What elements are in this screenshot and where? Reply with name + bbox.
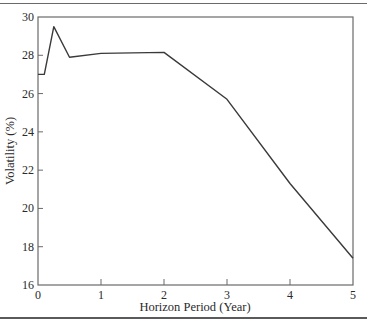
plot-border xyxy=(38,17,353,285)
y-axis-title: Volatility (%) xyxy=(3,117,17,185)
y-tick-label: 26 xyxy=(22,87,34,101)
y-tick-label: 30 xyxy=(22,10,34,24)
x-axis-title: Horizon Period (Year) xyxy=(139,300,250,314)
y-tick-label: 18 xyxy=(22,240,34,254)
x-tick-label: 5 xyxy=(350,288,356,302)
y-tick-label: 24 xyxy=(22,125,34,139)
x-tick-label: 4 xyxy=(287,288,293,302)
x-tick-label: 1 xyxy=(98,288,104,302)
y-axis: 1618202224262830 xyxy=(22,10,43,292)
y-tick-label: 20 xyxy=(22,201,34,215)
y-tick-label: 28 xyxy=(22,48,34,62)
bottom-rule xyxy=(0,317,367,319)
line-chart: 1618202224262830 012345 Horizon Period (… xyxy=(0,0,367,324)
y-tick-label: 22 xyxy=(22,163,34,177)
volatility-line xyxy=(38,27,353,259)
x-axis: 012345 xyxy=(35,279,356,302)
plot-frame xyxy=(38,17,353,285)
x-tick-label: 0 xyxy=(35,288,41,302)
y-tick-label: 16 xyxy=(22,278,34,292)
